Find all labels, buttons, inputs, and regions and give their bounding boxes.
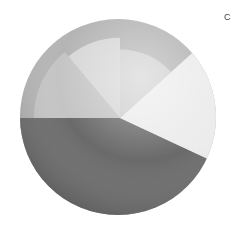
sphere-polar-chart — [0, 0, 240, 227]
sphere-shading — [20, 19, 216, 215]
